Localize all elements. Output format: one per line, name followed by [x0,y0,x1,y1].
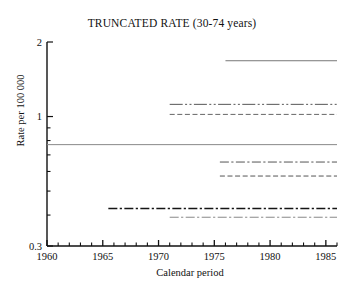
x-tick-label: 1975 [204,251,225,262]
x-tick-label: 1960 [37,251,58,262]
tick-labels: 210.3196019651970197519801985 [29,37,336,262]
x-tick-label: 1970 [148,251,169,262]
y-tick-label: 1 [37,111,42,122]
x-tick-label: 1965 [92,251,113,262]
chart-figure: TRUNCATED RATE (30-74 years) Rate per 10… [0,0,344,294]
x-tick-label: 1980 [260,251,281,262]
plot-area: 210.3196019651970197519801985 [47,42,337,246]
chart-title: TRUNCATED RATE (30-74 years) [0,17,344,29]
data-lines [47,61,337,217]
axes [47,42,337,246]
x-tick-label: 1985 [315,251,336,262]
y-tick-label: 0.3 [29,241,42,252]
y-tick-label: 2 [37,37,42,48]
x-axis-label: Calendar period [40,267,340,278]
y-axis-label: Rate per 100 000 [15,51,26,171]
chart-svg: 210.3196019651970197519801985 [47,42,337,246]
